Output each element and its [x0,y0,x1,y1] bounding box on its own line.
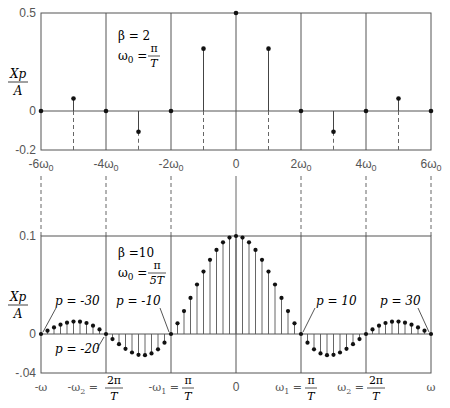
stem-dot [162,341,166,345]
stem-dot [331,129,336,134]
point-label-p-10: p = 10 [303,294,357,332]
x-tick-label: 4ω0 [355,157,376,173]
connector-lines [41,176,431,236]
stem-dot [266,269,270,273]
stem-dot [91,324,95,328]
stem-dot [169,332,173,336]
top-y-tick-zero: 0 [29,104,36,118]
svg-text:T: T [372,390,381,403]
stem-dot [344,347,348,351]
svg-text:T: T [150,57,159,70]
top-y-tick-top: 0.5 [19,6,36,20]
stem-dot [247,240,251,244]
svg-text:-ω2 =: -ω2 = [68,381,99,396]
point-label-p-minus-10: p = -10 [116,294,169,332]
stem-dot [416,325,420,329]
x-tick-minus-omega1: -ω1 = π T [149,374,195,403]
bottom-annotation-beta: β =10 [118,246,154,260]
x-tick-label: 2ω0 [290,157,311,173]
stem-dot [65,321,69,325]
stem-dot [39,109,44,114]
stem-dot [214,248,218,252]
x-tick-omega: ω [427,381,436,394]
svg-text:p = 30: p = 30 [380,294,421,308]
x-tick-minus-omega2: -ω2 = 2π T [68,374,124,403]
stem-dot [130,350,134,354]
stem-dot [136,353,140,357]
stem-dot [409,323,413,327]
stem-dot [45,329,49,333]
stem-dot [201,46,206,51]
stem-dot [396,319,400,323]
stem-dot [279,296,283,300]
stem-dot [52,325,56,329]
top-y-tick-bottom: -0.2 [15,143,36,157]
stem-dot [136,129,141,134]
stem-dot [208,258,212,262]
figure: 0.5 0 -0.2 Xp A β = 2 ω0 = π T -6ω0-4ω0-… [0,0,450,408]
stem-dot [227,235,231,239]
stem-dot [221,240,225,244]
stem-dot [338,350,342,354]
stem-dot [188,296,192,300]
bottom-plot: 0.1 0 -.04 Xp A β =10 ω0 = π 5T p = -30 … [8,229,436,403]
top-annotation-omega0: ω0 = π T [118,42,160,70]
x-tick-label: 0 [233,157,240,171]
svg-text:T: T [307,390,316,403]
point-label-p-minus-20: p = -20 [55,337,104,356]
stem-dot [260,258,264,262]
stem-dot [156,347,160,351]
top-annotation-beta: β = 2 [118,29,150,43]
stem-dot [143,353,147,357]
top-ylabel-numerator: Xp [9,67,27,81]
svg-text:p = -10: p = -10 [116,294,161,308]
bottom-annotation-omega0: ω0 = π 5T [118,259,166,287]
svg-text:π: π [184,374,191,387]
stem-dot [234,234,238,238]
svg-text:p = 10: p = 10 [316,294,357,308]
stem-dot [312,347,316,351]
stem-dot [266,46,271,51]
stem-dot [71,319,75,323]
stem-dot [123,347,127,351]
stem-dot [97,327,101,331]
stem-dot [84,321,88,325]
stem-dot [78,320,82,324]
stem-dot [403,321,407,325]
svg-text:2π: 2π [369,374,383,387]
svg-text:2π: 2π [107,374,121,387]
x-tick-omega1: ω1 = π T [275,374,317,403]
bottom-x-tick-labels: -ω -ω2 = 2π T -ω1 = π T 0 ω1 = π T [35,374,436,403]
stem-dot [357,337,361,341]
stem-dot [429,332,433,336]
top-ylabel-denominator: A [13,84,23,98]
svg-text:p = -30: p = -30 [55,294,100,308]
stem-dot [104,109,109,114]
stem-dot [318,351,322,355]
stem-dot [58,323,62,327]
stem-dot [175,321,179,325]
stem-dot [331,353,335,357]
svg-text:ω0 =: ω0 = [118,266,147,282]
stem-dot [390,320,394,324]
svg-text:ω1 =: ω1 = [275,381,302,396]
stem-dot [149,351,153,355]
stem-dot [351,342,355,346]
stem-dot [273,282,277,286]
svg-text:π: π [153,259,160,272]
x-tick-label: -2ω0 [158,157,183,173]
bottom-ylabel-denominator: A [13,307,23,321]
x-tick-label: -6ω0 [28,157,53,173]
stem-dot [234,11,239,16]
stem-dot [364,109,369,114]
top-x-tick-labels: -6ω0-4ω0-2ω002ω04ω06ω0 [28,157,441,173]
stem-dot [364,332,368,336]
stem-dot [370,327,374,331]
bottom-y-tick-bottom: -.04 [15,366,36,380]
stem-dot [169,109,174,114]
svg-text:ω2 =: ω2 = [337,381,364,396]
stem-dot [325,353,329,357]
stem-dot [240,235,244,239]
stem-dot [422,329,426,333]
stem-dot [104,332,108,336]
